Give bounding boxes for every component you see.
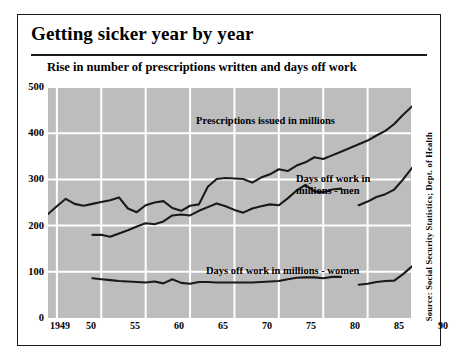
y-tick-100: 100 [4, 267, 44, 278]
series-label-men: Days off work in millions - men [296, 173, 370, 197]
page-title: Getting sicker year by year [31, 23, 254, 45]
x-tick-1960: 60 [174, 321, 184, 331]
series-label-men-line2: millions - men [296, 185, 360, 196]
x-tick-1949: 1949 [50, 321, 70, 331]
y-tick-400: 400 [4, 128, 44, 139]
title-divider [31, 54, 427, 56]
x-tick-1950: 50 [86, 321, 96, 331]
series-label-prescriptions: Prescriptions issued in millions [196, 115, 335, 127]
x-tick-1955: 55 [130, 321, 140, 331]
series-label-men-line1: Days off work in [296, 173, 370, 184]
y-tick-500: 500 [4, 82, 44, 93]
x-tick-1985: 85 [394, 321, 404, 331]
series-label-women: Days off work in millions - women [206, 265, 359, 277]
y-tick-200: 200 [4, 220, 44, 231]
plot-area: 500 400 300 200 100 0 1949 50 55 60 65 7… [48, 87, 412, 332]
x-tick-1980: 80 [350, 321, 360, 331]
series-line-2-seg0 [92, 277, 341, 284]
chart-figure: Getting sicker year by year Rise in numb… [17, 14, 441, 346]
y-tick-0: 0 [4, 313, 44, 324]
chart-subtitle: Rise in number of prescriptions written … [47, 60, 357, 75]
y-tick-300: 300 [4, 174, 44, 185]
x-tick-1990: 90 [438, 321, 448, 331]
x-tick-1970: 70 [262, 321, 272, 331]
source-note: Source: Social Security Statistics; Dept… [424, 132, 434, 321]
x-tick-1965: 65 [218, 321, 228, 331]
x-tick-1975: 75 [306, 321, 316, 331]
